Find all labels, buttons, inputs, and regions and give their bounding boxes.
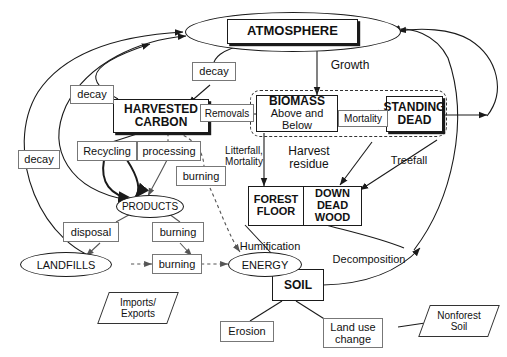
imports-exports-label-line2: Exports bbox=[121, 308, 155, 319]
erosion-label: Erosion bbox=[228, 325, 265, 337]
pool-harvested-carbon[interactable]: HARVESTED CARBON bbox=[113, 99, 209, 133]
external-imports-exports[interactable]: Imports/ Exports bbox=[103, 292, 173, 324]
humification-label: Humification bbox=[240, 240, 301, 252]
nonforest-soil-label-line2: Soil bbox=[451, 321, 468, 332]
flux-litterfall-mortality: Litterfall, Mortality bbox=[216, 143, 272, 169]
flux-growth: Growth bbox=[322, 58, 378, 74]
flux-burning-products[interactable]: burning bbox=[152, 222, 204, 242]
flux-removals[interactable]: Removals bbox=[200, 104, 254, 122]
recycling-label: Recycling bbox=[83, 145, 131, 157]
land-use-change-label-line1: Land use bbox=[330, 321, 375, 333]
standing-dead-label-line2: DEAD bbox=[397, 114, 431, 127]
energy-label: ENERGY bbox=[242, 259, 288, 271]
harvested-carbon-label-line2: CARBON bbox=[135, 116, 188, 129]
decay-left-label: decay bbox=[24, 153, 53, 165]
treefall-label: Treefall bbox=[391, 154, 427, 166]
pool-down-dead-wood[interactable]: DOWN DEAD WOOD bbox=[303, 186, 362, 226]
flux-decay-left[interactable]: decay bbox=[18, 150, 60, 169]
pool-energy[interactable]: ENERGY bbox=[228, 252, 302, 277]
flux-treefall: Treefall bbox=[382, 152, 436, 168]
flux-decay-mid[interactable]: decay bbox=[70, 85, 114, 104]
pool-biomass[interactable]: BIOMASS Above and Below bbox=[256, 95, 338, 132]
disposal-label: disposal bbox=[71, 226, 111, 238]
growth-label: Growth bbox=[331, 59, 370, 72]
litterfall-label-line1: Litterfall, bbox=[225, 145, 263, 156]
mortality-label: Mortality bbox=[344, 113, 382, 124]
processing-label: processing bbox=[142, 145, 195, 157]
flux-humification: Humification bbox=[232, 238, 308, 254]
pool-forest-floor[interactable]: FOREST FLOOR bbox=[248, 186, 304, 226]
harvest-residue-label-line1: Harvest bbox=[288, 145, 329, 158]
flux-mortality[interactable]: Mortality bbox=[338, 110, 388, 127]
decay-top-label: decay bbox=[199, 65, 228, 77]
pool-atmosphere[interactable]: ATMOSPHERE bbox=[227, 19, 358, 44]
forest-carbon-cycle-diagram: ATMOSPHERE HARVESTED CARBON BIOMASS Abov… bbox=[0, 0, 507, 357]
atmosphere-label: ATMOSPHERE bbox=[247, 24, 338, 38]
flux-decay-top[interactable]: decay bbox=[192, 62, 236, 81]
burning-products-label: burning bbox=[160, 226, 197, 238]
litterfall-label-line2: Mortality bbox=[225, 156, 263, 167]
flux-disposal[interactable]: disposal bbox=[63, 222, 119, 242]
down-dead-wood-label-line3: WOOD bbox=[315, 212, 350, 224]
harvest-residue-label-line2: residue bbox=[289, 158, 328, 171]
flux-burning-landfill[interactable]: burning bbox=[152, 254, 202, 274]
burning-landfill-label: burning bbox=[159, 258, 196, 270]
decay-mid-label: decay bbox=[77, 88, 106, 100]
flux-land-use-change[interactable]: Land use change bbox=[323, 318, 383, 348]
burning-right-label: burning bbox=[183, 170, 220, 182]
flux-erosion[interactable]: Erosion bbox=[220, 321, 274, 342]
forest-floor-label-line2: FLOOR bbox=[257, 206, 296, 218]
external-nonforest-soil[interactable]: Nonforest Soil bbox=[424, 305, 494, 337]
flux-processing[interactable]: processing bbox=[137, 141, 201, 161]
flux-decomposition: Decomposition bbox=[327, 251, 411, 267]
pool-standing-dead[interactable]: STANDING DEAD bbox=[386, 96, 443, 132]
removals-label: Removals bbox=[205, 108, 249, 119]
land-use-change-label-line2: change bbox=[335, 333, 371, 345]
pool-landfills[interactable]: LANDFILLS bbox=[20, 252, 112, 277]
imports-exports-label-line1: Imports/ bbox=[120, 297, 156, 308]
flux-harvest-residue: Harvest residue bbox=[278, 143, 340, 173]
soil-label: SOIL bbox=[284, 279, 312, 292]
products-label: PRODUCTS bbox=[122, 201, 178, 212]
biomass-label-line2: Above and Below bbox=[257, 108, 337, 132]
decomposition-label: Decomposition bbox=[333, 253, 406, 265]
landfills-label: LANDFILLS bbox=[37, 259, 96, 271]
nonforest-soil-label-line1: Nonforest bbox=[437, 310, 480, 321]
pool-products[interactable]: PRODUCTS bbox=[116, 195, 184, 218]
flux-recycling[interactable]: Recycling bbox=[77, 141, 137, 161]
flux-burning-right[interactable]: burning bbox=[176, 166, 226, 186]
connector-layer bbox=[0, 0, 507, 357]
